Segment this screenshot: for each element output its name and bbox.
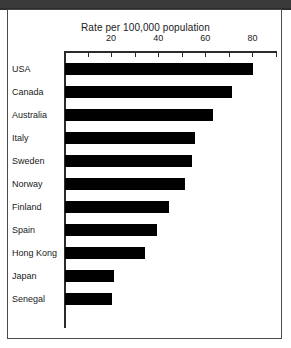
bar-canada bbox=[65, 86, 232, 98]
x-axis-tick-70 bbox=[229, 51, 230, 57]
bar-row: Finland bbox=[0, 196, 291, 219]
category-label-italy: Italy bbox=[12, 127, 29, 150]
bar-row: Australia bbox=[0, 104, 291, 127]
bar-row: Canada bbox=[0, 81, 291, 104]
category-label-norway: Norway bbox=[12, 173, 43, 196]
category-label-australia: Australia bbox=[12, 104, 47, 127]
x-axis-tick-10 bbox=[88, 51, 89, 57]
bar-usa bbox=[65, 63, 253, 75]
bar-row: Norway bbox=[0, 173, 291, 196]
category-label-spain: Spain bbox=[12, 219, 35, 242]
bar-senegal bbox=[65, 293, 112, 305]
bar-row: Hong Kong bbox=[0, 242, 291, 265]
category-label-sweden: Sweden bbox=[12, 150, 45, 173]
bar-sweden bbox=[65, 155, 192, 167]
bar-row: Japan bbox=[0, 265, 291, 288]
bar-row: USA bbox=[0, 58, 291, 81]
category-label-finland: Finland bbox=[12, 196, 42, 219]
x-axis-tick-label-80: 80 bbox=[240, 33, 264, 43]
x-axis-tick-label-40: 40 bbox=[146, 33, 170, 43]
x-axis-tick-90 bbox=[276, 51, 277, 57]
x-axis-tick-30 bbox=[135, 51, 136, 57]
x-axis-tick-60 bbox=[205, 51, 206, 57]
bar-italy bbox=[65, 132, 195, 144]
x-axis-tick-80 bbox=[252, 51, 253, 57]
x-axis-tick-50 bbox=[182, 51, 183, 57]
bar-australia bbox=[65, 109, 213, 121]
x-axis-tick-0 bbox=[64, 51, 65, 57]
category-label-usa: USA bbox=[12, 58, 31, 81]
bar-row: Senegal bbox=[0, 288, 291, 311]
category-label-canada: Canada bbox=[12, 81, 44, 104]
bar-chart-figure: Rate per 100,000 population 20406080 USA… bbox=[0, 0, 291, 348]
bar-rows: USACanadaAustraliaItalySwedenNorwayFinla… bbox=[0, 58, 291, 311]
bar-finland bbox=[65, 201, 169, 213]
x-axis-tick-20 bbox=[111, 51, 112, 57]
x-axis-tick-label-60: 60 bbox=[193, 33, 217, 43]
chart-title: Rate per 100,000 population bbox=[0, 22, 291, 33]
category-label-hong-kong: Hong Kong bbox=[12, 242, 57, 265]
x-axis-tick-label-20: 20 bbox=[99, 33, 123, 43]
x-axis-tick-40 bbox=[158, 51, 159, 57]
bar-norway bbox=[65, 178, 185, 190]
category-label-senegal: Senegal bbox=[12, 288, 45, 311]
bar-row: Italy bbox=[0, 127, 291, 150]
bar-japan bbox=[65, 270, 114, 282]
x-axis-line bbox=[64, 51, 276, 53]
bar-row: Spain bbox=[0, 219, 291, 242]
category-label-japan: Japan bbox=[12, 265, 37, 288]
bar-row: Sweden bbox=[0, 150, 291, 173]
bar-spain bbox=[65, 224, 157, 236]
bar-hong-kong bbox=[65, 247, 145, 259]
